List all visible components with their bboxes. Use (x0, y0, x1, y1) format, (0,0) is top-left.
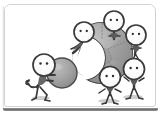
eye-right (86, 30, 88, 32)
illustration-panel: Five round-headed stick figures stand ar… (4, 4, 156, 107)
eye-right (112, 75, 114, 77)
head (104, 11, 124, 31)
head (74, 22, 94, 42)
figure-lower-middle (99, 67, 121, 105)
eye-left (132, 33, 134, 35)
cartoon-scene-svg (5, 5, 156, 107)
head (126, 25, 146, 45)
figure-lower-right (124, 59, 145, 100)
illustration-artwork: Five round-headed stick figures stand ar… (5, 5, 156, 107)
eye-left (39, 62, 42, 65)
shadow-lower-middle (98, 99, 120, 103)
eye-left (129, 67, 131, 69)
head (33, 54, 55, 76)
screenshot-root: Five round-headed stick figures stand ar… (0, 0, 161, 113)
eye-right (136, 67, 138, 69)
eye-left (110, 19, 112, 21)
head (124, 59, 145, 80)
eye-left (105, 75, 107, 77)
head (100, 67, 121, 88)
eye-right (46, 62, 49, 65)
eye-left (79, 30, 81, 32)
eye-right (138, 33, 140, 35)
page-bottom-edge (3, 108, 158, 111)
eye-right (116, 19, 118, 21)
